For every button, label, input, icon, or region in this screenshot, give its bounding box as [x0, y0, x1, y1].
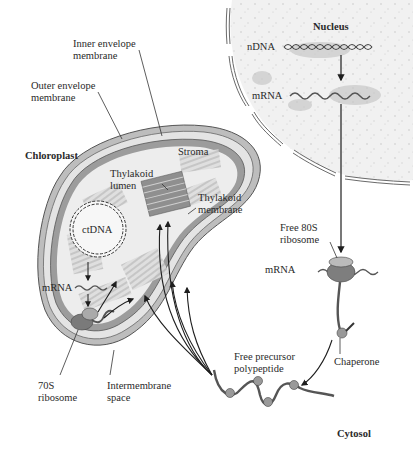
- label-line: Thylakoid: [198, 192, 242, 204]
- label-intermembrane-space: Intermembrane space: [107, 380, 171, 404]
- label-ndna: nDNA: [247, 41, 275, 53]
- label-line: membrane: [31, 92, 95, 104]
- label-line: ribosome: [280, 234, 319, 246]
- label-cytosol: Cytosol: [337, 428, 371, 440]
- label-line: membrane: [198, 204, 242, 216]
- label-line: polypeptide: [234, 363, 295, 375]
- label-line: Thylakoid: [110, 168, 153, 180]
- label-line: Intermembrane: [107, 380, 171, 392]
- label-line: Inner envelope: [73, 38, 136, 50]
- label-thylakoid-membrane: Thylakoid membrane: [198, 192, 242, 216]
- label-line: Free 80S: [280, 222, 319, 234]
- leader-intermembrane: [110, 350, 114, 375]
- label-free-80s-ribosome: Free 80S ribosome: [280, 222, 319, 246]
- label-70s-ribosome: 70S ribosome: [38, 380, 77, 404]
- precursor-polypeptide: [214, 370, 334, 407]
- leader-outer-envelope: [98, 92, 122, 139]
- ribosome-80s: [318, 257, 378, 338]
- label-chloroplast-mrna: mRNA: [42, 282, 72, 294]
- leader-80s-ribosome: [330, 242, 337, 258]
- label-line: Free precursor: [234, 351, 295, 363]
- release-arrow: [302, 340, 332, 385]
- label-inner-envelope: Inner envelope membrane: [73, 38, 136, 62]
- label-chaperone: Chaperone: [334, 356, 379, 368]
- label-line: ribosome: [38, 392, 77, 404]
- label-line: space: [107, 392, 171, 404]
- label-line: membrane: [73, 50, 136, 62]
- label-line: Outer envelope: [31, 80, 95, 92]
- label-outer-envelope: Outer envelope membrane: [31, 80, 95, 104]
- leader-inner-envelope: [139, 50, 162, 136]
- label-chloroplast: Chloroplast: [25, 150, 78, 162]
- label-cytosol-mrna: mRNA: [265, 264, 295, 276]
- label-nucleus: Nucleus: [313, 21, 349, 33]
- label-nuclear-mrna: mRNA: [252, 90, 282, 102]
- label-thylakoid-lumen: Thylakoid lumen: [110, 168, 153, 192]
- chloroplast-protein-import-diagram: Inner envelope membrane Outer envelope m…: [0, 0, 413, 457]
- label-free-precursor: Free precursor polypeptide: [234, 351, 295, 375]
- label-ctdna: ctDNA: [82, 224, 112, 236]
- label-line: 70S: [38, 380, 77, 392]
- label-line: lumen: [110, 180, 153, 192]
- label-stroma: Stroma: [178, 146, 208, 158]
